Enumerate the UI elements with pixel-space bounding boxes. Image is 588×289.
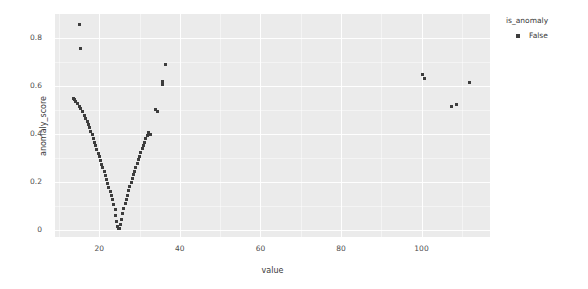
data-point bbox=[164, 63, 167, 66]
gridline-vertical-minor bbox=[59, 14, 60, 237]
data-point bbox=[161, 83, 164, 86]
gridline-horizontal-minor bbox=[55, 158, 490, 159]
gridline-horizontal-minor bbox=[55, 62, 490, 63]
gridline-vertical bbox=[260, 14, 261, 237]
data-point bbox=[128, 185, 131, 188]
data-point bbox=[118, 227, 121, 230]
gridline-horizontal bbox=[55, 182, 490, 183]
data-point bbox=[423, 77, 426, 80]
data-point bbox=[114, 214, 117, 217]
data-point bbox=[455, 103, 458, 106]
gridline-horizontal bbox=[55, 230, 490, 231]
gridline-vertical-minor bbox=[381, 14, 382, 237]
data-point bbox=[100, 163, 103, 166]
x-axis-label: value bbox=[55, 266, 490, 275]
data-point bbox=[93, 141, 96, 144]
data-point bbox=[106, 182, 109, 185]
data-point bbox=[120, 218, 123, 221]
data-point bbox=[139, 151, 142, 154]
data-point bbox=[144, 137, 147, 140]
y-axis-tick-label: 0.4 bbox=[30, 130, 42, 138]
data-point bbox=[109, 190, 112, 193]
gridline-horizontal-minor bbox=[55, 110, 490, 111]
gridline-horizontal-minor bbox=[55, 206, 490, 207]
gridline-vertical bbox=[422, 14, 423, 237]
data-point bbox=[134, 166, 137, 169]
data-point bbox=[112, 203, 115, 206]
gridline-vertical-minor bbox=[220, 14, 221, 237]
data-point bbox=[138, 155, 141, 158]
data-point bbox=[450, 105, 453, 108]
gridline-vertical-minor bbox=[301, 14, 302, 237]
gridline-horizontal bbox=[55, 86, 490, 87]
y-axis-tick-label: 0 bbox=[37, 226, 42, 234]
data-point bbox=[136, 162, 139, 165]
data-point bbox=[130, 181, 133, 184]
data-point bbox=[121, 212, 124, 215]
data-point bbox=[101, 166, 104, 169]
data-point bbox=[156, 110, 159, 113]
data-point bbox=[125, 198, 128, 201]
data-point bbox=[98, 155, 101, 158]
legend-entry-label: False bbox=[529, 31, 548, 40]
legend-title: is_anomaly bbox=[506, 16, 586, 25]
data-point bbox=[421, 73, 424, 76]
data-point bbox=[114, 208, 117, 211]
data-point bbox=[91, 133, 94, 136]
data-point bbox=[127, 189, 130, 192]
data-point bbox=[79, 47, 82, 50]
data-point bbox=[141, 147, 144, 150]
data-point bbox=[99, 159, 102, 162]
data-point bbox=[105, 178, 108, 181]
data-point bbox=[111, 198, 114, 201]
data-point bbox=[95, 148, 98, 151]
legend-entries: False bbox=[506, 31, 586, 40]
plot-panel bbox=[55, 14, 490, 237]
data-point bbox=[122, 207, 125, 210]
gridline-vertical bbox=[341, 14, 342, 237]
legend-marker-square-icon bbox=[516, 34, 520, 38]
x-axis-tick-label: 60 bbox=[240, 244, 280, 253]
data-point bbox=[110, 194, 113, 197]
gridline-vertical bbox=[99, 14, 100, 237]
data-point bbox=[142, 144, 145, 147]
data-point bbox=[468, 81, 471, 84]
y-axis-tick-label: 0.8 bbox=[30, 34, 42, 42]
data-point bbox=[137, 158, 140, 161]
gridline-horizontal bbox=[55, 134, 490, 135]
data-point bbox=[92, 137, 95, 140]
data-point bbox=[131, 177, 134, 180]
data-point bbox=[88, 126, 91, 129]
data-point bbox=[124, 202, 127, 205]
x-axis-tick-label: 80 bbox=[321, 244, 361, 253]
y-axis-ticks: 00.20.40.60.8 bbox=[0, 0, 50, 289]
gridline-horizontal bbox=[55, 38, 490, 39]
legend-entry[interactable]: False bbox=[506, 31, 586, 40]
x-axis-tick-label: 40 bbox=[160, 244, 200, 253]
data-point bbox=[143, 141, 146, 144]
scatter-plot: anomaly_score 00.20.40.60.8 value is_ano… bbox=[0, 0, 588, 289]
y-axis-tick-label: 0.6 bbox=[30, 82, 42, 90]
data-point bbox=[104, 174, 107, 177]
y-axis-tick-label: 0.2 bbox=[30, 178, 42, 186]
x-axis-tick-label: 20 bbox=[79, 244, 119, 253]
gridline-vertical-minor bbox=[140, 14, 141, 237]
gridline-vertical-minor bbox=[462, 14, 463, 237]
gridline-vertical bbox=[180, 14, 181, 237]
data-point bbox=[115, 220, 118, 223]
x-axis-tick-label: 100 bbox=[402, 244, 442, 253]
data-point bbox=[119, 223, 122, 226]
legend: is_anomaly False bbox=[506, 16, 586, 40]
data-point bbox=[132, 173, 135, 176]
data-point bbox=[97, 152, 100, 155]
data-point bbox=[78, 23, 81, 26]
data-point bbox=[103, 170, 106, 173]
data-point bbox=[133, 170, 136, 173]
data-point bbox=[107, 186, 110, 189]
data-point bbox=[149, 133, 152, 136]
data-point bbox=[126, 194, 129, 197]
